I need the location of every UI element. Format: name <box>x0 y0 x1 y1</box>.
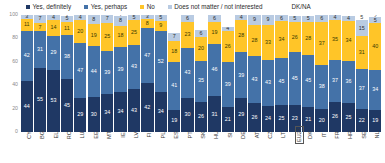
x-axis-label-text: LV <box>134 132 140 138</box>
bar-segment: 38 <box>315 65 327 109</box>
bar-FI[interactable]: 384742 <box>141 15 153 132</box>
bar-PL[interactable]: 595234 <box>155 15 167 132</box>
plot-area: 3114244773155414295315113845420472981944… <box>20 15 382 132</box>
x-axis-label-LU[interactable]: LU <box>74 133 86 163</box>
x-axis-label-DK[interactable]: DK <box>302 133 314 163</box>
x-axis-label-PL[interactable]: PL <box>155 133 167 163</box>
x-axis-label-ES[interactable]: ES <box>168 133 180 163</box>
bar-segment: 30 <box>88 97 100 132</box>
bar-IT[interactable]: 6373820 <box>315 15 327 132</box>
x-axis-label-BG[interactable]: BG <box>34 133 46 163</box>
x-axis-label-FI[interactable]: FI <box>141 133 153 163</box>
bar-SI[interactable]: 4263921 <box>222 15 234 132</box>
bar-segment: 19 <box>168 110 180 132</box>
x-axis-label-LT[interactable]: LT <box>275 133 287 163</box>
x-axis-label-NL[interactable]: NL <box>369 133 381 163</box>
bar-segment: 37 <box>315 22 327 65</box>
bar-segment: 22 <box>356 109 368 132</box>
x-axis-label-SK[interactable]: SK <box>195 133 207 163</box>
bar-segment: 15 <box>356 20 368 36</box>
x-axis-label-PT[interactable]: PT <box>181 133 193 163</box>
bar-FR[interactable]: 4353726 <box>329 15 341 132</box>
bar-segment: 26 <box>329 102 341 132</box>
bar-DK[interactable]: 5284521 <box>302 15 314 132</box>
x-axis-label-IT[interactable]: IT <box>315 133 327 163</box>
x-axis-label-EU27[interactable]: EU27 <box>289 133 301 163</box>
x-axis-label-AT[interactable]: AT <box>248 133 260 163</box>
y-axis-tick: 80 <box>12 36 18 41</box>
bar-segment: 6 <box>208 15 220 22</box>
chart-legend: Yes, definitely Yes, perhaps No Does not… <box>0 1 385 13</box>
bar-segment: 18 <box>114 26 126 47</box>
x-axis-label-text: PL <box>161 132 167 139</box>
bar-segment: 7 <box>34 23 46 31</box>
bar-EU27[interactable]: 5264523 <box>289 15 301 132</box>
bar-LU[interactable]: 4204729 <box>74 15 86 132</box>
x-axis-label-text: HR <box>348 131 354 139</box>
bar-AT[interactable]: 9284326 <box>248 15 260 132</box>
bar-segment: 21 <box>302 107 314 132</box>
bar-DE[interactable]: 4283929 <box>235 15 247 132</box>
legend-label-yes-perhaps: Yes, perhaps <box>91 4 128 10</box>
x-axis-label-text: PT <box>188 131 194 138</box>
bar-segment: 25 <box>275 105 287 132</box>
bar-segment: 39 <box>101 51 113 94</box>
bar-segment: 43 <box>262 60 274 106</box>
bar-segment: 34 <box>114 92 126 132</box>
x-axis-label-LV[interactable]: LV <box>128 133 140 163</box>
x-axis-label-EE[interactable]: EE <box>88 133 100 163</box>
bar-group: 3114244773155414295315113845420472981944… <box>20 15 382 132</box>
legend-swatch-no <box>140 5 144 9</box>
legend-swatch-yes-perhaps <box>84 5 88 9</box>
x-axis-label-EL[interactable]: EL <box>47 133 59 163</box>
bar-MT[interactable]: 7253934 <box>101 15 113 132</box>
x-axis-label-text: CY <box>27 131 33 139</box>
bar-segment: 45 <box>289 52 301 105</box>
bar-LT[interactable]: 6344525 <box>275 15 287 132</box>
x-axis-label-RO[interactable]: RO <box>61 133 73 163</box>
bar-NL[interactable]: 25403419 <box>369 15 381 132</box>
x-axis-label-FR[interactable]: FR <box>329 133 341 163</box>
bar-IE[interactable]: 18183934 <box>114 15 126 132</box>
bar-segment: 44 <box>88 46 100 97</box>
bar-RO[interactable]: 15113845 <box>61 15 73 132</box>
bar-segment: 18 <box>168 41 180 62</box>
bar-BG[interactable]: 773155 <box>34 15 46 132</box>
bar-SK[interactable]: 6203526 <box>195 15 207 132</box>
bar-segment: 47 <box>74 43 86 98</box>
x-axis-label-text: DK <box>308 131 314 139</box>
bar-ES[interactable]: 7184119 <box>168 15 180 132</box>
x-axis-label-SE[interactable]: SE <box>356 133 368 163</box>
bar-HR[interactable]: 4343625 <box>342 15 354 132</box>
bar-LV[interactable]: 5254343 <box>128 15 140 132</box>
y-axis-tick: 40 <box>12 83 18 88</box>
bar-segment: 8 <box>88 15 100 24</box>
bar-segment: 8 <box>114 16 126 25</box>
x-axis-label-CZ[interactable]: CZ <box>262 133 274 163</box>
bar-segment: 34 <box>101 94 113 132</box>
bar-EE[interactable]: 8194430 <box>88 15 100 132</box>
x-axis-label-HR[interactable]: HR <box>342 133 354 163</box>
x-axis-label-CY[interactable]: CY <box>21 133 33 163</box>
x-axis-label-text: EL <box>54 132 60 139</box>
bar-SE[interactable]: 515313722 <box>356 15 368 132</box>
legend-label-no: No <box>147 4 155 10</box>
bar-CY[interactable]: 3114244 <box>21 15 33 132</box>
x-axis-label-text: LU <box>80 131 86 138</box>
bar-HU[interactable]: 6194631 <box>208 15 220 132</box>
bar-segment: 34 <box>369 70 381 110</box>
x-axis-label-SI[interactable]: SI <box>222 133 234 163</box>
bar-segment: 43 <box>128 89 140 132</box>
x-axis-label-DE[interactable]: DE <box>235 133 247 163</box>
x-axis-label-IE[interactable]: IE <box>114 133 126 163</box>
x-axis-label-text: ES <box>174 131 180 138</box>
bar-segment: 42 <box>141 83 153 132</box>
bar-segment: 43 <box>128 45 140 88</box>
bar-PT[interactable]: 6234330 <box>181 15 193 132</box>
x-axis-label-MT[interactable]: MT <box>101 133 113 163</box>
legend-item-yes-perhaps: Yes, perhaps <box>84 4 127 10</box>
bar-segment: 47 <box>141 28 153 83</box>
bar-EL[interactable]: 4142953 <box>47 15 59 132</box>
bar-CZ[interactable]: 9334324 <box>262 15 274 132</box>
x-axis-label-HU[interactable]: HU <box>208 133 220 163</box>
